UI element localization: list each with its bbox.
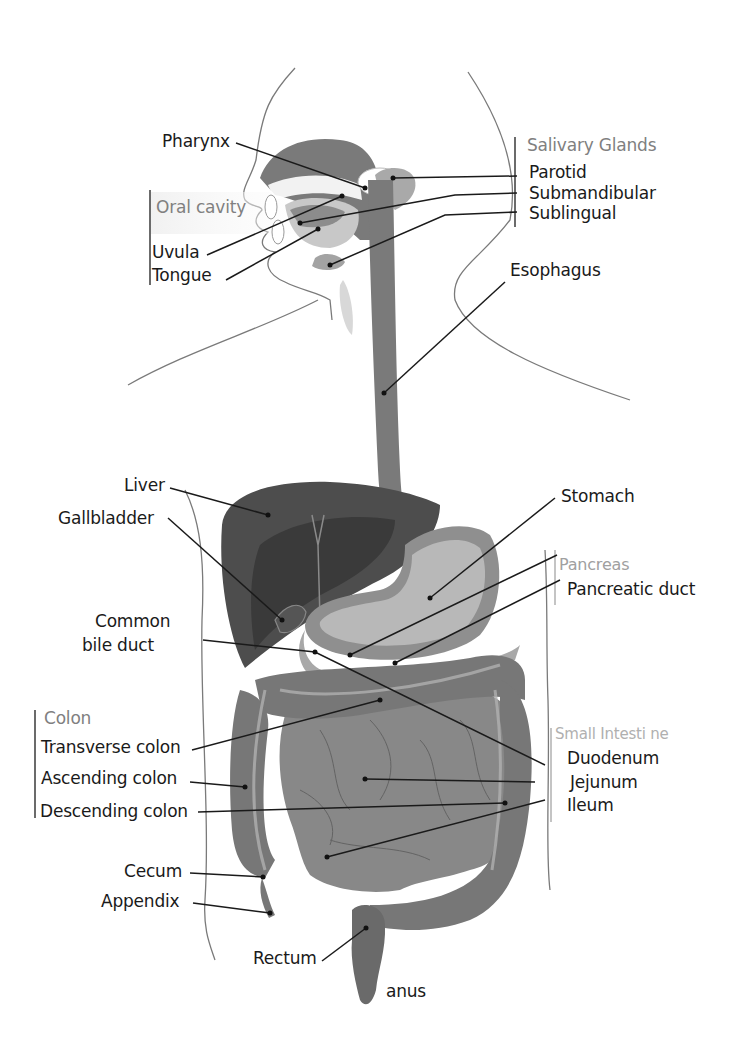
label-ascending-colon: Ascending colon [41, 770, 177, 787]
oral-cavity-header: Oral cavity [156, 199, 246, 216]
label-pharynx: Pharynx [162, 133, 230, 150]
label-transverse-colon: Transverse colon [41, 739, 181, 756]
digestive-system-diagram: Oral cavity Uvula Tongue Pharynx Salivar… [0, 0, 755, 1045]
label-pancreatic-duct: Pancreatic duct [567, 581, 695, 598]
label-common-bile-duct-line2: bile duct [82, 637, 154, 654]
label-rectum: Rectum [253, 950, 317, 967]
label-descending-colon: Descending colon [40, 803, 188, 820]
small-intestine-header: Small Intesti ne [555, 727, 669, 742]
label-appendix: Appendix [101, 893, 179, 910]
label-anus: anus [386, 983, 426, 1000]
label-stomach: Stomach [561, 488, 635, 505]
label-cecum: Cecum [124, 863, 182, 880]
label-tongue: Tongue [152, 267, 212, 284]
label-esophagus: Esophagus [510, 262, 601, 279]
label-submandibular: Submandibular [529, 185, 656, 202]
label-gallbladder: Gallbladder [58, 510, 154, 527]
label-ileum: Ileum [567, 797, 614, 814]
label-duodenum: Duodenum [567, 750, 659, 767]
label-parotid: Parotid [529, 164, 587, 181]
label-sublingual: Sublingual [529, 205, 616, 222]
label-jejunum: Jejunum [570, 774, 638, 791]
colon-header: Colon [44, 710, 91, 727]
label-uvula: Uvula [152, 244, 199, 261]
salivary-glands-header: Salivary Glands [527, 137, 656, 154]
pancreas-header: Pancreas [559, 557, 629, 573]
label-liver: Liver [124, 477, 165, 494]
label-common-bile-duct-line1: Common [95, 613, 170, 630]
